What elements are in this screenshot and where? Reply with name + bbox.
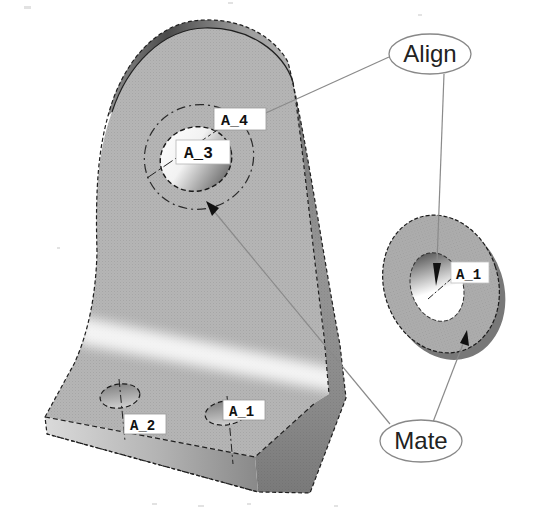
axis-tag-base-left: A_2 — [124, 414, 166, 434]
axis-tag-large-hole: A_3 — [176, 140, 230, 164]
figure-stage: A_4 A_3 A_2 A_1 A_1 Align Mate — [0, 0, 539, 520]
cad-assembly-figure: A_4 A_3 A_2 A_1 A_1 Align Mate — [0, 0, 539, 520]
axis-tag-base-left-label: A_2 — [130, 418, 155, 434]
callout-mate: Mate — [380, 420, 462, 462]
axis-tag-washer-label: A_1 — [456, 267, 481, 283]
bracket-part — [45, 20, 346, 493]
callout-align: Align — [389, 34, 471, 74]
axis-tag-washer: A_1 — [451, 262, 489, 283]
axis-tag-large-hole-upper: A_4 — [214, 108, 266, 130]
axis-tag-large-hole-upper-label: A_4 — [221, 113, 248, 130]
axis-tag-base-right: A_1 — [223, 400, 265, 420]
washer-part — [365, 200, 523, 375]
align-balloon-label: Align — [403, 40, 456, 67]
axis-tag-base-right-label: A_1 — [229, 404, 254, 420]
mate-balloon-label: Mate — [394, 427, 447, 454]
axis-tag-large-hole-label: A_3 — [184, 145, 213, 163]
bracket-front-face-texture — [45, 28, 329, 457]
